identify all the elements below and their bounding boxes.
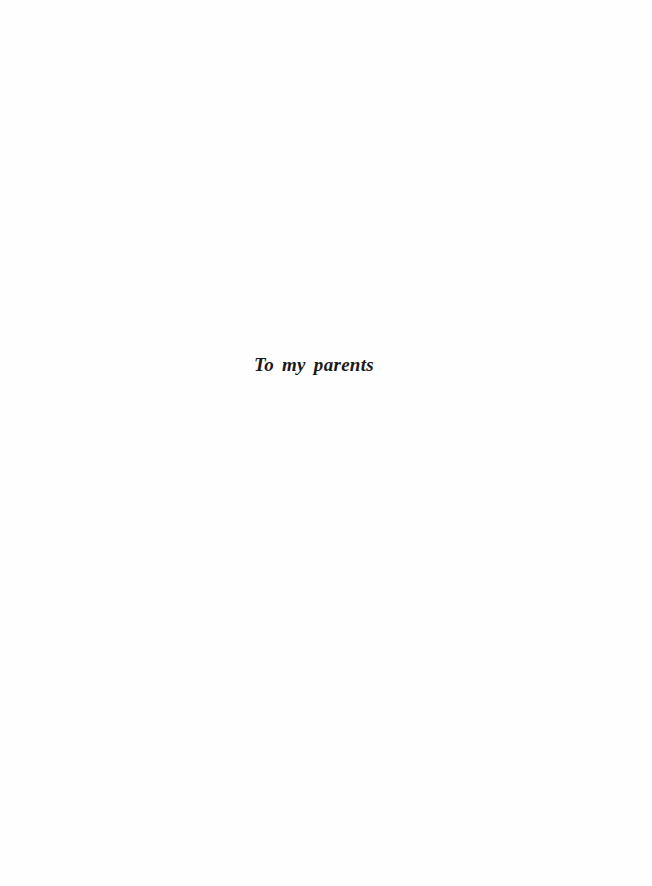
dedication-text: To my parents: [0, 354, 628, 376]
document-page: To my parents: [0, 0, 652, 886]
